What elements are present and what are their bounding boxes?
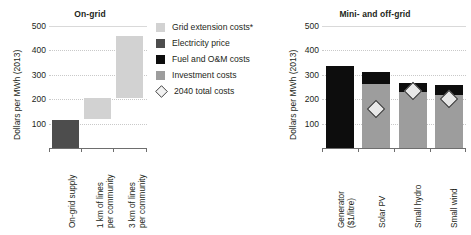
x-axis-on-grid: [49, 148, 147, 149]
ytick-400-mog: 400: [294, 45, 319, 55]
xlabel-1km-lines-line2: per community: [106, 156, 116, 228]
legend-swatch-investment-icon: [156, 71, 165, 80]
legend-item-investment: Investment costs: [156, 67, 253, 83]
xtick-4-mog: [465, 148, 466, 152]
xlabel-1km-lines: 1 km of lines per community: [96, 156, 115, 228]
legend-swatch-grid-extension-icon: [156, 23, 165, 32]
legend-label-investment: Investment costs: [172, 70, 236, 80]
xlabel-3km-lines-line2: per community: [138, 156, 148, 228]
legend-swatch-electricity-price-icon: [156, 39, 165, 48]
gridline-400-mog: [322, 50, 466, 51]
xlabel-3km-lines-line1: 3 km of lines: [128, 156, 138, 228]
bar-generator-fuel-om: [326, 66, 354, 148]
xlabel-generator-line2: ($1/litre): [347, 156, 357, 228]
plot-area-on-grid: [49, 26, 147, 148]
xlabel-solar-pv: Solar PV: [378, 196, 388, 228]
bar-small-hydro-investment: [399, 92, 427, 148]
ytick-200-mog: 200: [294, 94, 319, 104]
legend-item-fuel-om: Fuel and O&M costs: [156, 51, 253, 67]
legend: Grid extension costs* Electricity price …: [156, 19, 253, 99]
xlabel-3km-lines: 3 km of lines per community: [128, 156, 147, 228]
xlabel-generator: Generator ($1/litre): [337, 156, 356, 228]
legend-label-fuel-om: Fuel and O&M costs: [172, 54, 250, 64]
gridline-500-mog: [322, 26, 466, 27]
xlabel-generator-line1: Generator: [337, 156, 347, 228]
plot-area-mini-off-grid: [322, 26, 466, 148]
xlabel-small-hydro: Small hydro: [414, 185, 424, 228]
figure-root: On-grid Dollars per MWh (2013) 500 400 3…: [0, 0, 471, 235]
legend-label-electricity-price: Electricity price: [172, 38, 230, 48]
ytick-400-on-grid: 400: [20, 45, 46, 55]
gridline-500: [49, 26, 147, 27]
xtick-1-on-grid: [81, 148, 82, 152]
xtick-2-on-grid: [113, 148, 114, 152]
bar-1km-lines: [84, 98, 111, 119]
ytick-500-mog: 500: [294, 21, 319, 31]
xtick-0-mog: [322, 148, 323, 152]
chart-mini-off-grid: Mini- and off-grid Dollars per MWh (2013…: [280, 0, 471, 235]
bar-on-grid-supply: [52, 120, 79, 148]
bar-solar-pv-fuel-om: [362, 72, 390, 84]
ytick-300-on-grid: 300: [20, 70, 46, 80]
legend-item-2040-total: 2040 total costs: [156, 83, 253, 99]
xlabel-on-grid-supply: On-grid supply: [68, 175, 78, 228]
ytick-200-on-grid: 200: [20, 94, 46, 104]
ytick-100-mog: 100: [294, 119, 319, 129]
xlabel-small-wind: Small wind: [450, 188, 460, 228]
ytick-300-mog: 300: [294, 70, 319, 80]
xtick-2-mog: [394, 148, 395, 152]
xtick-3-on-grid: [146, 148, 147, 152]
legend-swatch-fuel-om-icon: [156, 55, 165, 64]
legend-diamond-2040-total-icon: [155, 85, 168, 98]
bar-3km-lines: [116, 36, 143, 98]
xtick-0-on-grid: [49, 148, 50, 152]
chart-title-mini-off-grid: Mini- and off-grid: [300, 9, 450, 19]
ytick-500-on-grid: 500: [20, 21, 46, 31]
legend-item-electricity-price: Electricity price: [156, 35, 253, 51]
legend-label-2040-total: 2040 total costs: [174, 86, 234, 96]
chart-title-on-grid: On-grid: [40, 9, 140, 19]
xtick-1-mog: [358, 148, 359, 152]
xlabel-1km-lines-line1: 1 km of lines: [96, 156, 106, 228]
xtick-3-mog: [430, 148, 431, 152]
bar-generator: [326, 66, 354, 148]
legend-label-grid-extension: Grid extension costs*: [172, 22, 253, 32]
legend-item-grid-extension: Grid extension costs*: [156, 19, 253, 35]
chart-on-grid: On-grid Dollars per MWh (2013) 500 400 3…: [0, 0, 160, 235]
ytick-100-on-grid: 100: [20, 119, 46, 129]
